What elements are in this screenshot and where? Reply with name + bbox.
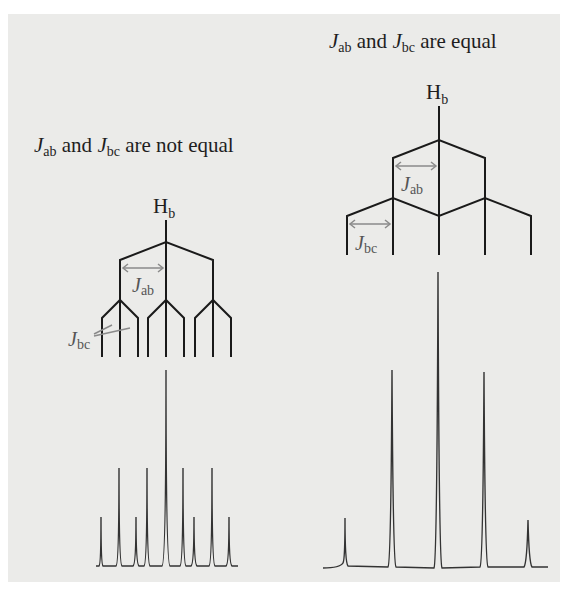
svg-text:Hb: Hb <box>426 80 448 107</box>
left-proton-label: Hb <box>153 194 175 221</box>
right-splitting-tree <box>347 106 531 255</box>
svg-text:Jab and Jbc are equal: Jab and Jbc are equal <box>329 29 497 55</box>
right-jbc-arrow: Jbc <box>350 220 390 256</box>
svg-text:Jab: Jab <box>132 274 154 298</box>
nmr-splitting-diagram: Jab and Jbc are not equal Hb Jab Jbc <box>0 0 566 589</box>
left-splitting-tree <box>102 220 231 357</box>
svg-text:Jab: Jab <box>401 173 423 197</box>
right-title: Jab and Jbc are equal <box>329 29 497 55</box>
left-jab-arrow: Jab <box>123 264 163 298</box>
left-spectrum <box>96 370 238 566</box>
svg-text:Jbc: Jbc <box>355 232 377 256</box>
right-proton-label: Hb <box>426 80 448 107</box>
svg-text:Hb: Hb <box>153 194 175 221</box>
right-spectrum <box>323 272 548 568</box>
svg-text:Jab and Jbc are not equal: Jab and Jbc are not equal <box>34 133 234 159</box>
right-jab-arrow: Jab <box>396 162 436 197</box>
svg-text:Jbc: Jbc <box>68 328 90 352</box>
left-title: Jab and Jbc are not equal <box>34 133 234 159</box>
